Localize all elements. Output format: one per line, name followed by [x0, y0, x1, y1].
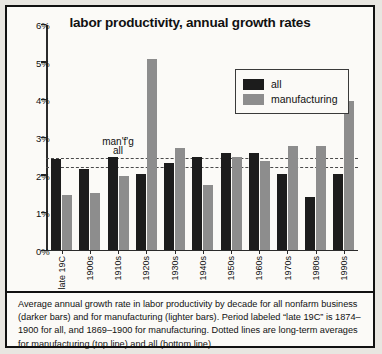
bar-manufacturing — [147, 59, 157, 249]
x-axis-label-text: 1940s — [198, 256, 208, 281]
y-axis-tick-label: 0% — [36, 246, 37, 257]
x-axis-label-text: 1920s — [141, 256, 151, 281]
bar-group — [76, 25, 104, 250]
bar-all — [136, 174, 146, 249]
x-axis-tick — [231, 250, 232, 254]
bar-manufacturing — [175, 148, 185, 250]
bar-manufacturing — [62, 195, 72, 250]
x-axis-label: 1960s — [245, 255, 273, 289]
bar-manufacturing — [344, 101, 354, 250]
x-axis-label-text: 1910s — [113, 256, 123, 281]
bar-manufacturing — [90, 193, 100, 250]
bar-group — [160, 25, 188, 250]
chart-legend: all manufacturing — [235, 69, 349, 114]
x-axis-label-text: late 19C — [57, 256, 67, 290]
bar-all — [51, 159, 61, 249]
figure-caption: Average annual growth rate in labor prod… — [18, 298, 362, 351]
bar-group — [189, 25, 217, 250]
y-axis-tick-label: 5% — [36, 57, 37, 68]
bar-all — [192, 157, 202, 249]
x-axis-label-text: 1990s — [339, 256, 349, 281]
x-axis-tick — [62, 250, 63, 254]
bar-all — [164, 163, 174, 250]
y-axis-tick-label: 3% — [36, 133, 37, 144]
x-axis-label-text: 1950s — [226, 256, 236, 281]
bar-manufacturing — [260, 161, 270, 250]
bar-group — [273, 25, 301, 250]
x-axis-tick — [259, 250, 260, 254]
chart-panel: labor productivity, annual growth rates … — [7, 7, 373, 290]
bar-group — [132, 25, 160, 250]
x-axis-label: 1930s — [161, 255, 189, 289]
x-axis-tick — [175, 250, 176, 254]
x-axis-label: late 19C — [48, 255, 76, 289]
bar-group — [48, 25, 76, 250]
x-axis-label-text: 1980s — [311, 256, 321, 281]
x-axis-labels: late 19C1900s1910s1920s1930s1940s1950s19… — [48, 255, 359, 289]
y-axis-tick-label: 6% — [36, 20, 37, 31]
bar-manufacturing — [288, 146, 298, 250]
x-axis-label: 1980s — [302, 255, 330, 289]
x-axis-label: 1970s — [274, 255, 302, 289]
y-axis-tick-label: 1% — [36, 208, 37, 219]
legend-item-manufacturing: manufacturing — [243, 93, 338, 105]
x-axis-tick — [316, 250, 317, 254]
bar-group — [302, 25, 330, 250]
bar-all — [249, 153, 259, 249]
bar-manufacturing — [232, 157, 242, 249]
bar-group — [245, 25, 273, 250]
x-axis-tick — [287, 250, 288, 254]
x-axis-label: 1920s — [132, 255, 160, 289]
legend-label-manufacturing: manufacturing — [271, 93, 338, 105]
legend-item-all: all — [243, 78, 338, 90]
bar-group — [217, 25, 245, 250]
x-axis-tick — [146, 250, 147, 254]
bar-manufacturing — [119, 176, 129, 249]
bar-group-container — [48, 25, 359, 250]
figure-panel: labor productivity, annual growth rates … — [5, 5, 375, 348]
x-axis-label: 1900s — [76, 255, 104, 289]
y-axis-tick-label: 2% — [36, 170, 37, 181]
x-axis-label-text: 1970s — [283, 256, 293, 281]
x-axis-label-text: 1960s — [254, 256, 264, 281]
bar-manufacturing — [316, 146, 326, 250]
bar-all — [79, 169, 89, 250]
legend-label-all: all — [271, 78, 282, 90]
x-axis-label: 1950s — [217, 255, 245, 289]
bar-all — [108, 157, 118, 249]
bar-all — [221, 153, 231, 249]
x-axis-tick — [90, 250, 91, 254]
x-axis-tick — [344, 250, 345, 254]
bar-group — [330, 25, 358, 250]
x-axis-label-text: 1900s — [85, 256, 95, 281]
y-axis-tick-label: 4% — [36, 95, 37, 106]
bar-all — [333, 174, 343, 249]
legend-swatch-icon-manufacturing — [243, 94, 264, 105]
x-axis-tick — [118, 250, 119, 254]
legend-swatch-icon-all — [243, 79, 264, 90]
bar-manufacturing — [203, 185, 213, 249]
x-axis-label: 1910s — [104, 255, 132, 289]
bar-all — [305, 197, 315, 250]
bar-group — [104, 25, 132, 250]
bar-all — [277, 174, 287, 249]
plot-area: 0%1%2%3%4%5%6% man'f'gall — [46, 25, 358, 251]
x-axis-label-text: 1930s — [170, 256, 180, 281]
caption-divider — [7, 291, 373, 293]
x-axis-tick — [203, 250, 204, 254]
x-axis-label: 1940s — [189, 255, 217, 289]
x-axis-label: 1990s — [330, 255, 358, 289]
